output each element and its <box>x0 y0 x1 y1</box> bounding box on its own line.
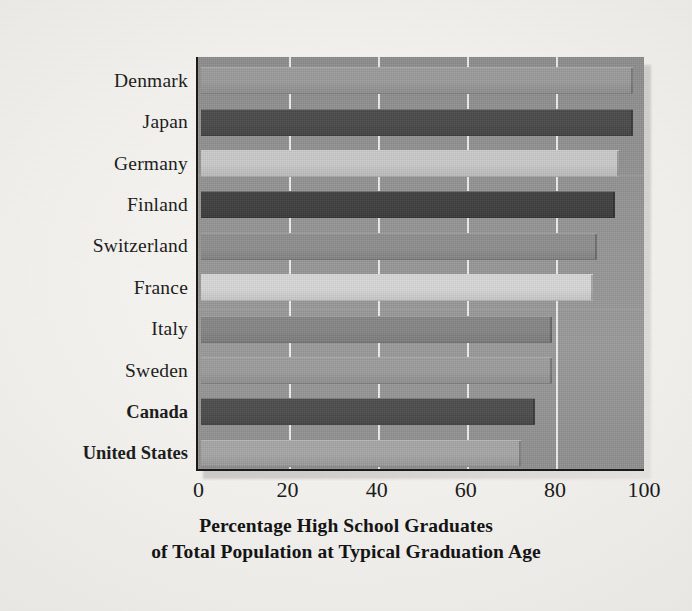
x-axis-title: Percentage High School Graduates of Tota… <box>0 513 692 565</box>
bar-end-cap <box>550 317 552 342</box>
y-axis-label-united-states: United States <box>83 443 188 463</box>
scan-artifact <box>198 309 644 310</box>
x-tick-label-80: 80 <box>544 477 566 503</box>
x-axis-title-line-1: Percentage High School Graduates <box>0 513 692 539</box>
y-axis-label-sweden: Sweden <box>125 361 188 381</box>
bar-japan <box>201 109 633 136</box>
bar-end-cap <box>631 68 633 93</box>
y-axis-label-germany: Germany <box>114 154 188 174</box>
bar-end-cap <box>591 275 593 300</box>
x-tick-label-20: 20 <box>277 477 299 503</box>
bar-end-cap <box>595 234 597 259</box>
x-tick-label-100: 100 <box>628 477 661 503</box>
y-axis-label-denmark: Denmark <box>114 71 188 91</box>
bar-end-cap <box>550 358 552 383</box>
bar-chart: DenmarkJapanGermanyFinlandSwitzerlandFra… <box>0 0 692 611</box>
y-axis-label-canada: Canada <box>126 402 188 422</box>
bar-end-cap <box>613 192 615 217</box>
y-axis-label-france: France <box>134 278 188 298</box>
x-tick-label-40: 40 <box>366 477 388 503</box>
x-axis: 020406080100 <box>196 471 648 511</box>
plot-area <box>196 57 644 471</box>
plot-area-wrapper <box>196 57 644 471</box>
bar-italy <box>201 316 553 343</box>
bar-canada <box>201 398 535 425</box>
bar-united-states <box>201 440 522 467</box>
bar-germany <box>201 150 620 177</box>
bar-switzerland <box>201 233 597 260</box>
y-axis-category-labels: DenmarkJapanGermanyFinlandSwitzerlandFra… <box>20 64 194 468</box>
x-tick-label-0: 0 <box>193 477 204 503</box>
bar-end-cap <box>631 110 633 135</box>
y-axis-label-japan: Japan <box>143 112 188 132</box>
bar-sweden <box>201 357 553 384</box>
bar-denmark <box>201 67 633 94</box>
bar-finland <box>201 191 615 218</box>
x-axis-title-line-2: of Total Population at Typical Graduatio… <box>0 539 692 565</box>
y-axis-label-switzerland: Switzerland <box>93 236 188 256</box>
y-axis-label-italy: Italy <box>151 319 188 339</box>
bar-end-cap <box>519 441 521 466</box>
x-tick-label-60: 60 <box>455 477 477 503</box>
y-axis-label-finland: Finland <box>127 195 188 215</box>
bar-end-cap <box>533 399 535 424</box>
bar-france <box>201 274 593 301</box>
bar-end-cap <box>617 151 619 176</box>
